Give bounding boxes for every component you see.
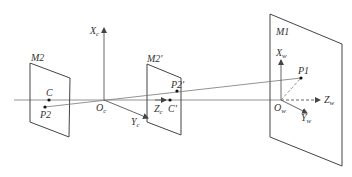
point-p1: [299, 76, 302, 79]
yc-axis-arrow: [104, 100, 148, 118]
label-m2-prime: M2': [147, 54, 162, 64]
label-zw: Zw: [324, 95, 334, 107]
point-c: [47, 98, 50, 101]
plane-m2-prime: [147, 64, 181, 135]
label-c: C: [46, 88, 53, 98]
projection-diagram: M2 M2' M1 C P2 P2' C' P1 Xc Oc Yc Zc Xw …: [0, 0, 352, 177]
p1-dashed-line: [281, 78, 301, 100]
label-m2: M2: [31, 53, 44, 63]
point-c-prime: [168, 98, 171, 101]
label-c-prime: C': [168, 104, 177, 114]
label-m1: M1: [276, 27, 289, 37]
label-xw: Xw: [276, 48, 287, 60]
label-zc: Zc: [154, 104, 163, 116]
label-ow: Ow: [274, 103, 286, 115]
label-yw: Yw: [301, 113, 311, 125]
label-p1: P1: [298, 66, 309, 76]
label-p2-prime: P2': [171, 80, 184, 90]
label-xc: Xc: [90, 26, 99, 38]
label-oc: Oc: [96, 103, 106, 115]
label-yc: Yc: [131, 117, 140, 129]
label-p2: P2: [40, 110, 51, 120]
